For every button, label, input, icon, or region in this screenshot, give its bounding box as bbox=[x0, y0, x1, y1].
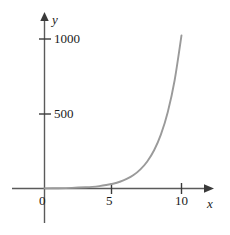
exponential-growth-chart: y x 1000 500 0 5 10 bbox=[0, 0, 230, 235]
x-tick-label-0: 0 bbox=[39, 194, 46, 207]
x-axis-arrowhead bbox=[204, 184, 214, 192]
x-tick-label-10: 10 bbox=[175, 194, 188, 207]
x-axis-label: x bbox=[207, 197, 213, 210]
y-axis-label: y bbox=[52, 13, 58, 26]
x-tick-label-5: 5 bbox=[106, 194, 113, 207]
y-axis-arrowhead bbox=[40, 12, 48, 21]
y-tick-label-500: 500 bbox=[54, 107, 74, 120]
y-tick-label-1000: 1000 bbox=[54, 32, 80, 45]
chart-canvas bbox=[0, 0, 230, 235]
